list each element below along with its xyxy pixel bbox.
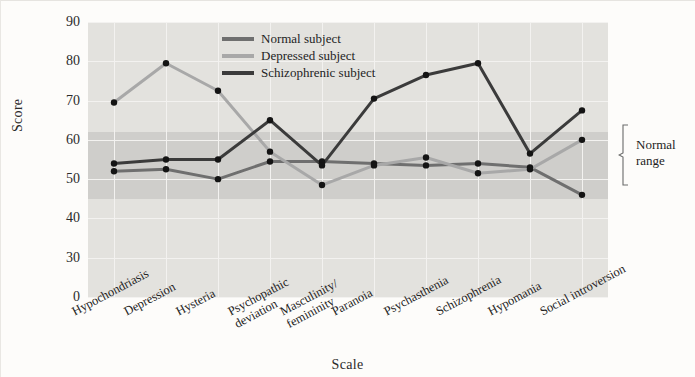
data-point-marker [215, 156, 221, 162]
chart-figure: Score 030405060708090 HypochondriasisDep… [0, 0, 695, 377]
data-point-marker [423, 162, 429, 168]
data-point-marker [423, 154, 429, 160]
data-point-marker [111, 168, 117, 174]
legend-item: Depressed subject [222, 48, 375, 63]
data-point-marker [371, 95, 377, 101]
y-axis-tick-label: 80 [66, 54, 80, 68]
data-point-marker [267, 158, 273, 164]
chart-legend: Normal subjectDepressed subjectSchizophr… [222, 31, 375, 82]
data-point-marker [215, 88, 221, 94]
data-point-marker [319, 182, 325, 188]
y-axis-tick-label: 90 [66, 15, 80, 29]
normal-range-bracket-icon [618, 124, 630, 186]
legend-swatch-icon [222, 54, 254, 58]
series-line [114, 161, 582, 194]
legend-label: Schizophrenic subject [261, 65, 375, 81]
data-point-marker [527, 166, 533, 172]
data-point-marker [475, 160, 481, 166]
data-point-marker [475, 60, 481, 66]
normal-range-label-line: Normal [636, 137, 676, 153]
y-axis-tick-label: 30 [66, 251, 80, 265]
data-point-marker [267, 148, 273, 154]
data-point-marker [527, 150, 533, 156]
data-point-marker [423, 72, 429, 78]
data-point-marker [163, 156, 169, 162]
legend-item: Normal subject [222, 31, 375, 46]
data-point-marker [579, 192, 585, 198]
legend-item: Schizophrenic subject [222, 65, 375, 80]
y-axis-title: Score [10, 99, 26, 132]
y-axis-tick-labels: 030405060708090 [48, 0, 80, 377]
data-point-marker [163, 166, 169, 172]
data-point-marker [215, 176, 221, 182]
data-point-marker [111, 99, 117, 105]
y-axis-tick-label: 60 [66, 133, 80, 147]
data-point-marker [371, 162, 377, 168]
y-axis-tick-label: 50 [66, 172, 80, 186]
data-point-marker [579, 107, 585, 113]
data-point-marker [267, 117, 273, 123]
data-point-marker [111, 160, 117, 166]
data-point-marker [579, 137, 585, 143]
legend-swatch-icon [222, 37, 254, 41]
legend-swatch-icon [222, 71, 254, 75]
x-axis-title: Scale [0, 357, 695, 373]
data-point-marker [163, 60, 169, 66]
legend-label: Normal subject [261, 31, 341, 47]
normal-range-label-line: range [636, 153, 676, 169]
y-axis-tick-label: 40 [66, 211, 80, 225]
data-point-marker [319, 162, 325, 168]
normal-range-label: Normalrange [636, 137, 676, 170]
data-point-marker [475, 170, 481, 176]
y-axis-tick-label: 70 [66, 94, 80, 108]
legend-label: Depressed subject [261, 48, 355, 64]
